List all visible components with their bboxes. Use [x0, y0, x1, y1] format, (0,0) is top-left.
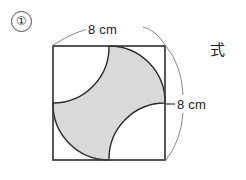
geometry-figure: [0, 0, 246, 180]
dimension-label-top: 8 cm: [86, 23, 119, 37]
worksheet-figure-page: ① 8 cm 8 cm 式: [0, 0, 246, 180]
dimension-line-top-right: [143, 27, 165, 45]
astroid-star-shape: [53, 46, 165, 160]
dimension-line-right-upper: [166, 46, 183, 95]
dimension-line-right-lower: [166, 113, 183, 160]
dimension-label-right: 8 cm: [175, 98, 208, 112]
answer-slot-label: 式: [210, 41, 225, 59]
